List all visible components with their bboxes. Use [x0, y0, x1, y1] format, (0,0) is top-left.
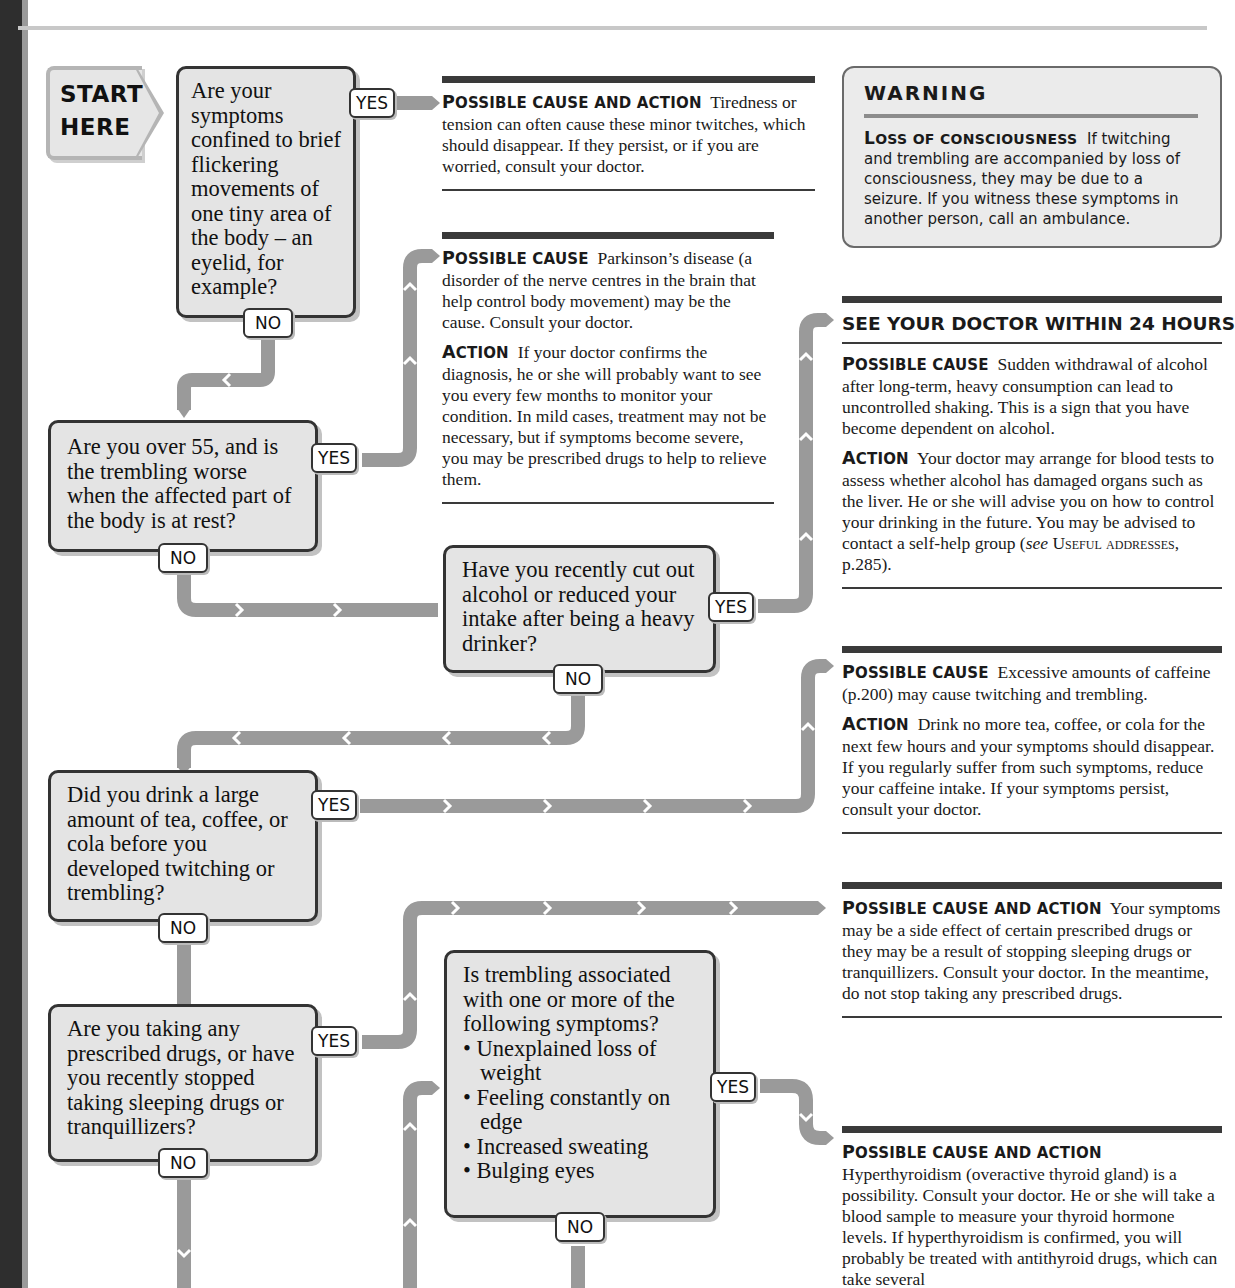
warning-title: WARNING [864, 78, 1198, 118]
result-top-bar [442, 76, 815, 83]
question-q1-text: Are your symptoms confined to brief flic… [191, 78, 341, 299]
result-r3: SEE YOUR DOCTOR WITHIN 24 HOURS POSSIBLE… [842, 296, 1222, 589]
question-q5: Are you taking any prescribed drugs, or … [48, 1004, 318, 1162]
question-q6-text: Is trembling associated with one or more… [463, 963, 697, 1037]
symptom-item: Bulging eyes [463, 1159, 697, 1184]
result-r4-cause: POSSIBLE CAUSE Excessive amounts of caff… [842, 662, 1222, 705]
q4-yes-button[interactable]: YES [311, 790, 357, 820]
q6-yes-button[interactable]: YES [710, 1072, 756, 1102]
q2-yes-button[interactable]: YES [311, 443, 357, 473]
result-r5-section: POSSIBLE CAUSE AND ACTION Your symptoms … [842, 898, 1222, 1004]
result-top-bar [842, 882, 1222, 889]
question-q3-text: Have you recently cut out alcohol or red… [462, 557, 694, 656]
connector-into-q6 [410, 1088, 432, 1288]
section-heading: POSSIBLE CAUSE AND ACTION [442, 94, 702, 112]
q3-yes-button[interactable]: YES [708, 592, 754, 622]
connector-q1-no [184, 338, 268, 410]
result-r2-cause: POSSIBLE CAUSE Parkinson’s disease (a di… [442, 248, 774, 333]
section-heading: POSSIBLE CAUSE [842, 664, 989, 682]
q3-no-button[interactable]: NO [553, 664, 603, 694]
warning-heading: LOSS OF CONSCIOUSNESS [864, 131, 1077, 147]
result-r3-action: ACTION Your doctor may arrange for blood… [842, 448, 1222, 575]
symptom-item: Feeling constantly on edge [463, 1086, 697, 1135]
symptom-item: Unexplained loss of weight [463, 1037, 697, 1086]
result-bottom-rule [442, 189, 815, 191]
connector-q3-no [184, 694, 578, 768]
warning-body: LOSS OF CONSCIOUSNESS If twitching and t… [864, 128, 1198, 229]
result-top-bar [842, 646, 1222, 653]
useful-addresses-link[interactable]: Useful addresses [1052, 533, 1174, 553]
question-q3: Have you recently cut out alcohol or red… [443, 545, 716, 673]
result-r4: POSSIBLE CAUSE Excessive amounts of caff… [842, 646, 1222, 834]
start-label-line2: HERE [60, 111, 150, 144]
result-r5: POSSIBLE CAUSE AND ACTION Your symptoms … [842, 882, 1222, 1018]
q1-yes-button[interactable]: YES [349, 88, 395, 118]
question-q5-text: Are you taking any prescribed drugs, or … [67, 1016, 294, 1139]
q6-no-button[interactable]: NO [555, 1212, 605, 1242]
result-r6: POSSIBLE CAUSE AND ACTION Hyperthyroidis… [842, 1126, 1222, 1288]
result-bottom-rule [842, 1016, 1222, 1018]
symptom-item: Increased sweating [463, 1135, 697, 1160]
result-r2-action: ACTION If your doctor confirms the diagn… [442, 342, 774, 490]
question-q4-text: Did you drink a large amount of tea, cof… [67, 782, 288, 905]
result-top-bar [442, 232, 774, 239]
question-q1: Are your symptoms confined to brief flic… [176, 66, 356, 318]
question-q6: Is trembling associated with one or more… [444, 950, 716, 1218]
question-q2-text: Are you over 55, and is the trembling wo… [67, 434, 291, 533]
connector-q2-no [184, 572, 438, 610]
result-r1: POSSIBLE CAUSE AND ACTION Tiredness or t… [442, 76, 815, 191]
q2-no-button[interactable]: NO [158, 543, 208, 573]
connector-q6-yes [760, 1086, 826, 1138]
section-heading: POSSIBLE CAUSE [842, 356, 989, 374]
result-r6-section: POSSIBLE CAUSE AND ACTION Hyperthyroidis… [842, 1142, 1222, 1288]
q5-no-button[interactable]: NO [158, 1148, 208, 1178]
result-r1-section: POSSIBLE CAUSE AND ACTION Tiredness or t… [442, 92, 815, 177]
section-heading: ACTION [442, 344, 509, 362]
result-r4-action: ACTION Drink no more tea, coffee, or col… [842, 714, 1222, 820]
start-here-label: START HERE [60, 78, 150, 144]
question-q2: Are you over 55, and is the trembling wo… [48, 420, 318, 552]
q1-no-button[interactable]: NO [243, 308, 293, 338]
result-bottom-rule [842, 587, 1222, 589]
q4-no-button[interactable]: NO [158, 913, 208, 943]
section-heading: POSSIBLE CAUSE [442, 250, 589, 268]
question-q6-symptom-list: Unexplained loss of weight Feeling const… [463, 1037, 697, 1184]
result-top-bar [842, 296, 1222, 303]
result-bottom-rule [842, 832, 1222, 834]
section-heading: ACTION [842, 716, 909, 734]
question-q4: Did you drink a large amount of tea, cof… [48, 770, 318, 922]
result-r2: POSSIBLE CAUSE Parkinson’s disease (a di… [442, 232, 774, 504]
section-heading: ACTION [842, 450, 909, 468]
section-heading: POSSIBLE CAUSE AND ACTION [842, 900, 1102, 918]
start-label-line1: START [60, 78, 150, 111]
warning-box: WARNING LOSS OF CONSCIOUSNESS If twitchi… [842, 66, 1222, 248]
q5-yes-button[interactable]: YES [311, 1026, 357, 1056]
urgency-heading: SEE YOUR DOCTOR WITHIN 24 HOURS [842, 312, 1222, 344]
result-bottom-rule [442, 502, 774, 504]
result-top-bar [842, 1126, 1222, 1133]
section-heading: POSSIBLE CAUSE AND ACTION [842, 1144, 1102, 1162]
result-r3-cause: POSSIBLE CAUSE Sudden withdrawal of alco… [842, 354, 1222, 439]
connector-q2-yes [362, 256, 432, 460]
